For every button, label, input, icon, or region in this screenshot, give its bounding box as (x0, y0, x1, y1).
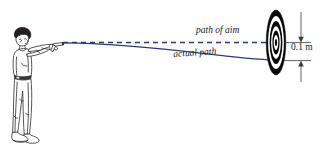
drop-distance-label: 0.1 m (291, 42, 313, 52)
handgun-icon (51, 43, 64, 52)
physics-diagram-figure: path of aim actual path 0.1 m (0, 0, 323, 153)
shooter-belt-buckle-icon (16, 77, 19, 79)
path-of-aim-label: path of aim (196, 25, 239, 35)
actual-path-curve-icon (63, 43, 278, 61)
bullseye-target-icon (266, 10, 286, 75)
shooter-icon (12, 27, 56, 143)
target-bullseye-center (275, 39, 277, 46)
diagram-canvas (0, 0, 323, 153)
dimension-arrowhead-up (298, 61, 304, 67)
